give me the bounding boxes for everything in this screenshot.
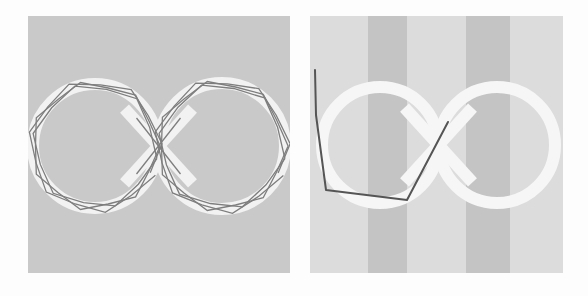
panel-left	[28, 16, 290, 273]
background-stripe	[466, 16, 510, 273]
background-stripe	[368, 16, 407, 273]
figure	[0, 0, 588, 296]
panel-right	[310, 16, 563, 273]
figure-canvas	[0, 0, 588, 296]
